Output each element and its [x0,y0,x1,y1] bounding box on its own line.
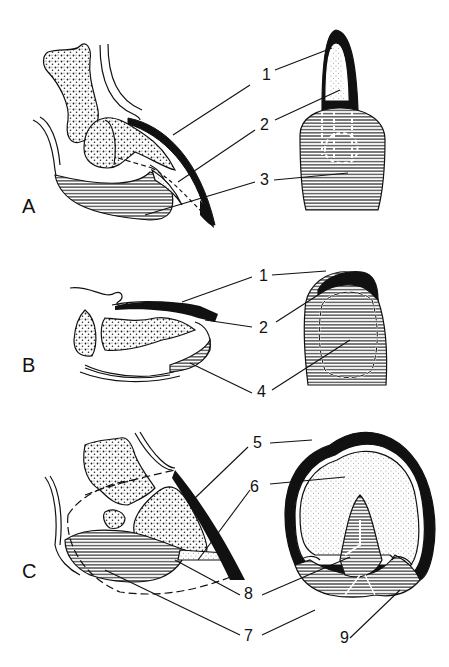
panel-label-c: C [22,561,36,581]
callout-c8: 8 [244,586,253,602]
panel-b-side-view [70,288,210,382]
panel-label-a: A [22,196,35,216]
callout-a1: 1 [262,67,271,83]
callout-b4: 4 [257,384,266,400]
panel-a-front-view [300,30,385,210]
callout-c7: 7 [244,628,253,644]
callout-c5: 5 [253,435,262,451]
callout-b1: 1 [259,268,268,284]
callout-a3: 3 [260,172,269,188]
panel-c-sole-view [285,432,435,597]
digit-anatomy-figure [0,0,449,667]
panel-a-side-view [33,44,205,220]
callout-a2: 2 [260,117,269,133]
callout-b2: 2 [259,320,268,336]
callout-c6: 6 [250,479,259,495]
callout-c9: 9 [340,630,349,646]
panel-b-front-view [304,272,386,385]
panel-label-b: B [22,355,35,375]
